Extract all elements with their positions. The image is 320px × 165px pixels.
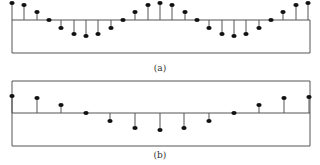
stem-marker xyxy=(46,18,51,22)
stem-marker xyxy=(157,1,162,5)
stem-marker xyxy=(181,126,186,130)
stem-marker xyxy=(243,32,248,36)
stem-marker xyxy=(95,32,100,36)
stem-marker xyxy=(107,119,112,123)
stem-marker xyxy=(256,26,261,30)
stem-marker xyxy=(293,3,298,7)
stem-marker xyxy=(305,1,310,5)
stem-marker xyxy=(169,3,174,7)
stem-marker xyxy=(194,18,199,22)
stem-plots xyxy=(0,0,320,165)
stem-marker xyxy=(9,1,14,5)
stem-marker xyxy=(132,10,137,14)
stem-marker xyxy=(157,128,162,132)
stem-marker xyxy=(145,3,150,7)
stem-marker xyxy=(108,26,113,30)
stem-marker xyxy=(182,10,187,14)
stem-marker xyxy=(256,103,261,107)
stem-marker xyxy=(58,103,63,107)
stem-marker xyxy=(71,32,76,36)
stem-marker xyxy=(83,111,88,115)
stem-marker xyxy=(9,94,14,98)
caption-b: (b) xyxy=(154,150,167,160)
stem-marker xyxy=(219,32,224,36)
stem-marker xyxy=(132,126,137,130)
stem-marker xyxy=(58,26,63,30)
stem-marker xyxy=(306,95,311,99)
stem-marker xyxy=(120,18,125,22)
stem-marker xyxy=(281,96,286,100)
stem-marker xyxy=(206,119,211,123)
stem-marker xyxy=(34,96,39,100)
stem-marker xyxy=(83,34,88,38)
caption-a: (a) xyxy=(154,63,166,73)
stem-marker xyxy=(268,18,273,22)
stem-marker xyxy=(231,111,236,115)
stem-marker xyxy=(231,34,236,38)
stem-marker xyxy=(206,26,211,30)
stem-marker xyxy=(21,3,26,7)
stem-marker xyxy=(280,10,285,14)
stem-marker xyxy=(34,10,39,14)
